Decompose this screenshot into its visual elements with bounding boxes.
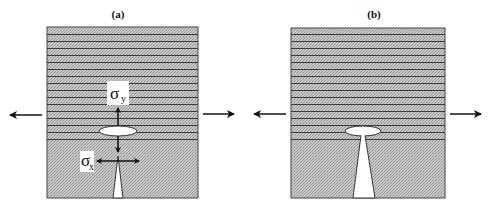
panel-b-label: (b) <box>367 8 381 21</box>
sigma-y-subscript: y <box>121 93 126 104</box>
crack-diagram: (a) σ y <box>0 0 490 205</box>
sigma-y-symbol: σ <box>110 84 119 103</box>
panel-a-label: (a) <box>112 8 125 21</box>
panel-b: (b) <box>254 8 481 198</box>
sigma-x-subscript: x <box>89 161 94 172</box>
void-ellipse-a <box>99 126 137 136</box>
specimen-block-a <box>47 27 198 198</box>
crack-void-junction <box>362 133 365 137</box>
panel-a: (a) σ y <box>10 8 234 198</box>
